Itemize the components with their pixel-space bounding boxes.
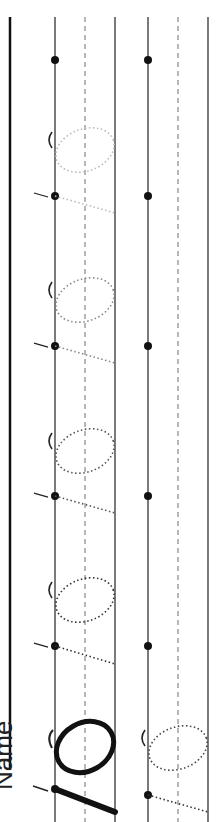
row-2-guides [148,17,208,822]
curl-arrow-icon [49,282,52,298]
curl-arrow-icon [49,132,52,148]
curl-arrow-icon [49,730,53,748]
start-dot [51,56,59,64]
curl-arrow-icon [142,730,145,746]
model-digit-10 [33,711,123,812]
trace-10-4 [34,120,120,213]
arrow-icon [34,193,48,197]
arrow-icon [33,786,48,791]
curl-arrow-icon [49,582,52,598]
arrow-icon [34,643,48,647]
curl-arrow-icon [49,433,52,449]
arrow-icon [34,343,48,347]
name-label: Name [0,721,19,790]
trace-10-3 [34,270,120,363]
trace-10-2 [34,421,120,513]
arrow-icon [34,493,48,497]
start-dot [51,785,59,793]
handwriting-worksheet [0,0,216,822]
trace-10-1 [34,570,120,664]
